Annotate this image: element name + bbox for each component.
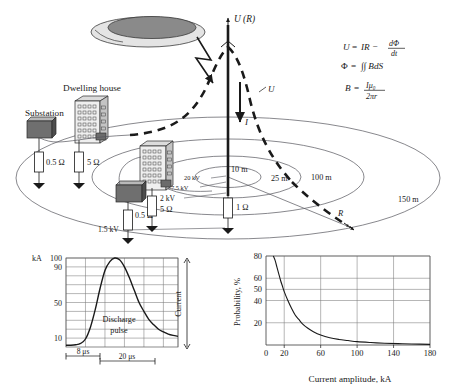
label-R: R (337, 208, 344, 218)
formula-b: B = Iμ₀ 2πr (345, 81, 385, 101)
formula-u-rhs: IR − (360, 42, 378, 52)
discharge-annotation-line2: pulse (110, 326, 128, 335)
formula-phi: Φ = ∫∫ BdS (341, 61, 384, 72)
dwelling-house (75, 96, 108, 143)
discharge-current-bracket (184, 258, 190, 349)
resistor-strike-point-label: 1 Ω (236, 203, 249, 212)
probability-xtick: 100 (351, 349, 364, 358)
label-U-group: U (259, 84, 275, 94)
formula-phi-lhs: Φ (341, 61, 348, 71)
probability-y-ticks: 2040506080 (254, 252, 262, 328)
resistor-house-mid-label: 5 Ω (160, 205, 173, 214)
resistor-house-left (73, 140, 85, 189)
discharge-pulse-chart: kA 105090100 Discharge pulse Current 8 μ… (32, 254, 190, 361)
resistor-house-left-label: 5 Ω (87, 158, 100, 167)
resistor-substation-left (33, 138, 45, 189)
probability-xtick: 180 (424, 349, 437, 358)
formula-b-lhs: B (345, 83, 351, 93)
discharge-x-spans (66, 356, 155, 361)
potential-20kv-label: 20 kV (184, 174, 200, 181)
formula-u-eq: = (352, 42, 357, 52)
label-I: I (244, 117, 249, 127)
probability-xtick: 0 (264, 349, 268, 358)
resistor-substation-mid (122, 202, 134, 244)
probability-ylabel: Probability, % (233, 278, 242, 326)
substation-left (27, 117, 56, 138)
formula-u-num: dΦ (389, 39, 399, 48)
ring-150m-label: 150 m (398, 195, 419, 204)
discharge-tail-time-label: 20 μs (119, 352, 136, 361)
formula-u: U = IR − dΦ dt (343, 39, 405, 58)
probability-xtick: 140 (387, 349, 400, 358)
formula-b-eq: = (354, 83, 359, 93)
storm-cloud (91, 17, 205, 48)
probability-curve (273, 256, 430, 344)
current-amplitude-probability-chart: 2040506080 02060100140180 Probability, %… (233, 252, 436, 384)
lightning-bolt-arrow (196, 37, 213, 83)
substation-left-label: Substation (25, 108, 64, 118)
discharge-right-label: Current (174, 291, 183, 317)
probability-xlabel: Current amplitude, kA (309, 374, 392, 384)
label-U: U (268, 84, 275, 94)
formula-block: U = IR − dΦ dt Φ = ∫∫ BdS B = Iμ₀ 2πr (341, 39, 405, 101)
probability-ytick: 50 (254, 285, 262, 294)
ring-100m-label: 100 m (311, 173, 332, 182)
discharge-ytick: 90 (54, 263, 62, 272)
figure-root: 10 m 25 m 100 m 150 m 20 kV 7.5 kV 2 kV … (0, 0, 453, 391)
substation-mid (116, 181, 146, 202)
formula-phi-eq: = (351, 61, 356, 71)
discharge-y-ticks: 105090100 (50, 254, 62, 343)
potential-2kv-label: 2 kV (160, 194, 175, 203)
formula-b-den: 2πr (366, 92, 378, 101)
discharge-ytick: 10 (54, 334, 62, 343)
formula-u-lhs: U (343, 42, 351, 52)
probability-chart-grid (266, 256, 430, 345)
potential-1-5kv-label: 1.5 kV (98, 225, 119, 234)
discharge-ytick: 50 (54, 299, 62, 308)
discharge-ytick: 100 (50, 254, 62, 263)
probability-xtick: 60 (316, 349, 324, 358)
probability-ytick: 60 (254, 274, 262, 283)
resistor-house-mid (146, 188, 158, 232)
formula-u-den: dt (391, 49, 398, 58)
probability-ytick: 40 (254, 297, 262, 306)
resistor-substation-left-label: 0.5 Ω (46, 158, 65, 167)
formula-phi-rhs: ∫∫ BdS (360, 61, 384, 72)
discharge-front-time-label: 8 μs (77, 347, 90, 356)
discharge-annotation-line1: Discharge (102, 315, 135, 324)
formula-b-num: Iμ₀ (365, 81, 376, 90)
probability-x-ticks: 02060100140180 (264, 345, 436, 358)
ring-10m-label: 10 m (231, 165, 248, 174)
probability-xtick: 20 (280, 349, 288, 358)
probability-ytick: 80 (254, 252, 262, 261)
resistor-strike-point (222, 190, 234, 234)
dwelling-house-label: Dwelling house (63, 83, 121, 93)
probability-ytick: 20 (254, 319, 262, 328)
axis-label-UR: U (R) (234, 14, 255, 25)
technical-figure: 10 m 25 m 100 m 150 m 20 kV 7.5 kV 2 kV … (0, 0, 453, 391)
discharge-ylabel: kA (32, 254, 42, 263)
